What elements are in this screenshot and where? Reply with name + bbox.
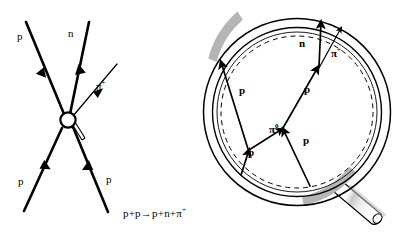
figure-canvas (0, 0, 402, 235)
label-outgoing-pion: π+ (96, 81, 106, 92)
line (26, 22, 64, 114)
track-neutron (319, 22, 321, 67)
label-chamber-pi-plus: π+ (331, 48, 341, 59)
lens-handle (334, 182, 385, 225)
physics-figure: p n π+ p p p+p→p+n+π+ p p π0 p p n π+ (0, 0, 402, 235)
line (24, 128, 62, 211)
bubble-chamber-diagram (204, 12, 391, 225)
rim-inner-circle (213, 28, 382, 197)
pi-plus-charge: + (337, 46, 341, 54)
label-incoming-proton-left: p (18, 176, 24, 187)
stub-cap (82, 138, 85, 140)
label-outgoing-proton-left: p (17, 31, 23, 42)
arrowhead (82, 159, 95, 172)
label-chamber-pi-zero: π0 (269, 124, 279, 135)
line (221, 62, 248, 149)
feynman-diagram (24, 22, 117, 212)
label-chamber-p-lower-right: p (303, 135, 309, 146)
lens-rim (204, 12, 391, 206)
label-chamber-neutron: n (299, 38, 305, 49)
eq-arrow-icon: → (141, 207, 152, 219)
label-outgoing-neutron: n (68, 28, 74, 39)
line (319, 22, 321, 67)
lens-glass-edge (217, 32, 377, 192)
label-incoming-proton-right: p (106, 174, 112, 185)
rim-shade-upper-left (208, 12, 243, 63)
track-outgoing-proton-left (26, 22, 64, 114)
line (283, 67, 318, 128)
track-p-middle (283, 67, 318, 128)
label-chamber-p-middle: p (304, 84, 310, 95)
track-incoming-proton-left (24, 128, 62, 211)
rim-outer-circle (204, 19, 391, 206)
pion-charge: + (102, 79, 106, 87)
track-p-upper-left (221, 62, 248, 149)
interaction-blob (60, 112, 75, 127)
reaction-equation: p+p→p+n+π+ (123, 207, 186, 219)
track-incoming-proton-right (73, 127, 108, 212)
eq-rhs-c-charge: + (182, 206, 186, 214)
label-chamber-p-upper-left: p (239, 85, 245, 96)
pi-zero-charge: 0 (275, 122, 279, 130)
label-chamber-p-lower-left: p (248, 147, 254, 158)
